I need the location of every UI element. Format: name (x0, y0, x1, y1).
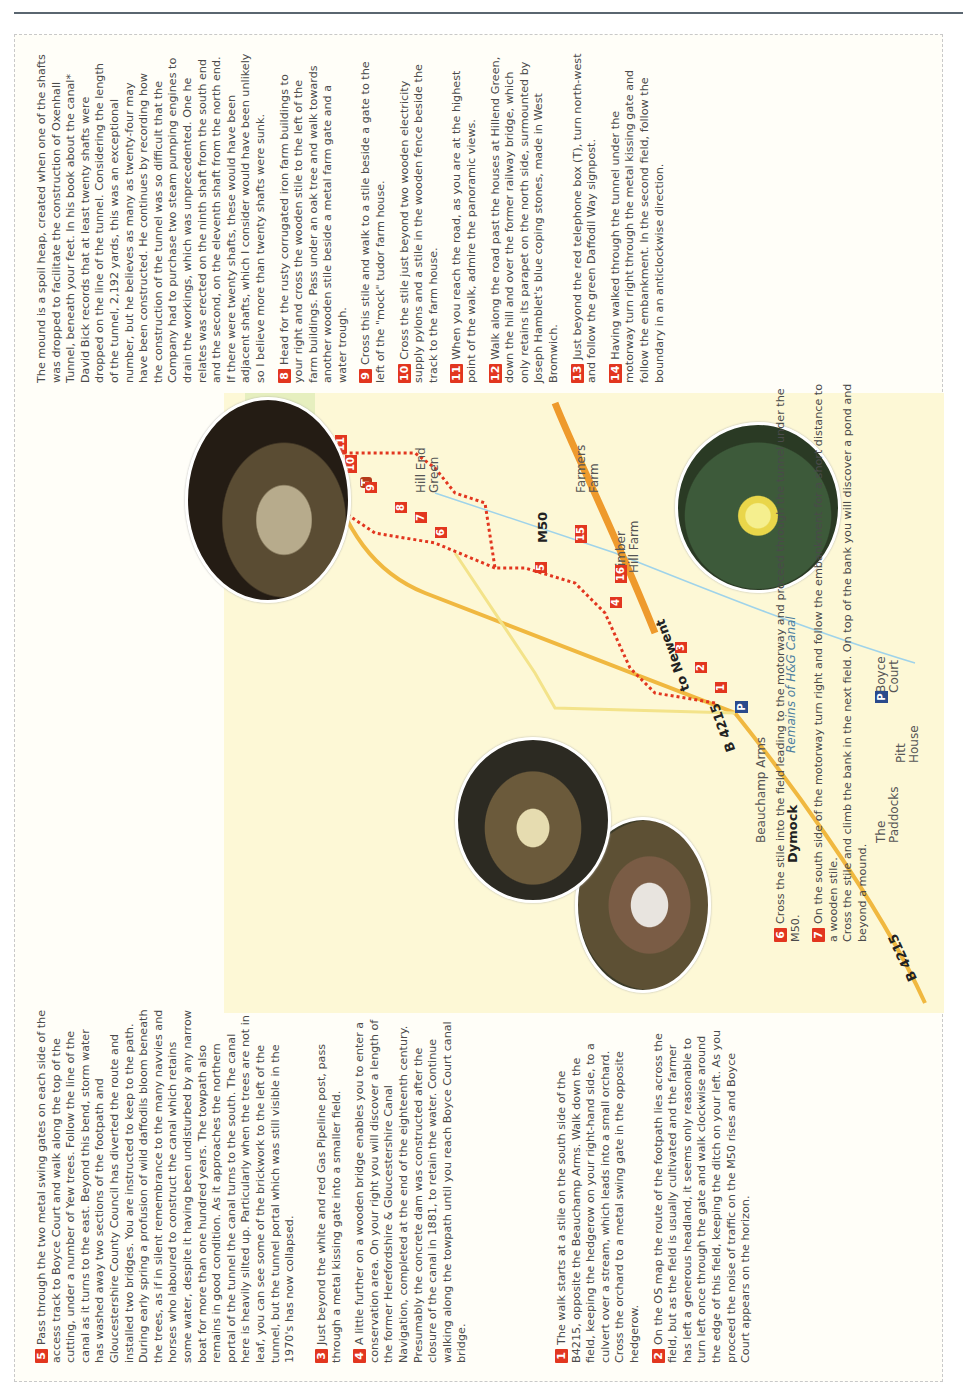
step-number-badge: 3 (315, 1349, 328, 1363)
tree-roots-photo (455, 737, 611, 903)
map-marker-5: 5 (535, 562, 547, 573)
step-number-badge: 9 (359, 369, 372, 383)
walk-guide-page: 1The walk starts at a stile on the south… (14, 34, 943, 1382)
place-label-farmers-farm: Farmers Farm (575, 445, 601, 493)
map-marker-2: 2 (695, 662, 707, 673)
step-3: 3Just beyond the white and red Gas Pipel… (315, 1018, 344, 1363)
steps-column-left-3: 5Pass through the two metal swing gates … (35, 1008, 307, 1363)
map-marker-8: 8 (395, 502, 407, 513)
place-label-beauchamp-arms: Beauchamp Arms (755, 737, 768, 843)
step-number-badge: 12 (489, 364, 502, 383)
step-number-badge: 11 (450, 364, 463, 383)
header-rule (14, 12, 963, 14)
steps-column-left-2: 3Just beyond the white and red Gas Pipel… (315, 1018, 479, 1363)
step-14: 14Having walked through the tunnel under… (609, 53, 667, 383)
rotated-landscape-content: 1The walk starts at a stile on the south… (15, 35, 944, 1383)
step-number-badge: 1 (555, 1349, 568, 1363)
place-label-the-paddocks: The Paddocks (875, 787, 901, 843)
road-label-m50: M50 (535, 512, 550, 543)
step-9: 9Cross this stile and walk to a stile be… (359, 53, 388, 383)
step-number-badge: 13 (571, 364, 584, 383)
step-10: 10Cross the stile just beyond two wooden… (398, 53, 442, 383)
tunnel-interior-photo (185, 397, 351, 603)
place-label-pitt-house: Pitt House (895, 725, 921, 763)
map-marker-6: 6 (435, 527, 447, 538)
steps-column-left: 1The walk starts at a stile on the south… (555, 1028, 763, 1363)
step-2: 2On the OS map the route of the footpath… (652, 1028, 754, 1363)
step-4: 4A little further on a wooden bridge ena… (353, 1018, 470, 1363)
step-number-badge: 14 (609, 364, 622, 383)
place-label-boyce-court: Boyce Court (875, 656, 901, 693)
map-marker-3: 3 (675, 642, 687, 653)
place-label-hill-end-green: Hill End Green (415, 447, 441, 493)
map-marker-15: 15 (575, 525, 587, 543)
steps-column-right: The mound is a spoil heap, created when … (35, 53, 676, 383)
step-8: 8Head for the rusty corrugated iron farm… (278, 53, 351, 383)
route-map: B 4215 B 4215 to Newent Dymock Beauchamp… (15, 393, 944, 1013)
map-marker-9: 9 (365, 482, 377, 493)
step-number-badge: 2 (652, 1349, 665, 1363)
step-1: 1The walk starts at a stile on the south… (555, 1028, 643, 1363)
step-number-badge: 10 (398, 364, 411, 383)
step-number-badge: 5 (35, 1349, 48, 1363)
map-marker-4: 4 (610, 597, 622, 608)
step-number-badge: 8 (278, 369, 291, 383)
mound-paragraph: The mound is a spoil heap, created when … (35, 53, 269, 383)
place-label-dymock: Dymock (785, 805, 800, 863)
parking-icon: P (735, 701, 748, 713)
step-number-badge: 4 (353, 1349, 366, 1363)
step-5: 5Pass through the two metal swing gates … (35, 1008, 298, 1363)
parking-icon: P (875, 691, 888, 703)
map-marker-1: 1 (715, 682, 727, 693)
map-marker-16: 16 (615, 565, 627, 583)
map-marker-7: 7 (415, 512, 427, 523)
step-11: 11When you reach the road, as you are at… (450, 53, 479, 383)
place-label-canal: Remains of H&G Canal (785, 616, 798, 753)
step-12: 12Walk along the road past the houses at… (489, 53, 562, 383)
daffodils-photo (675, 422, 841, 593)
step-13: 13Just beyond the red telephone box (T),… (571, 53, 600, 383)
